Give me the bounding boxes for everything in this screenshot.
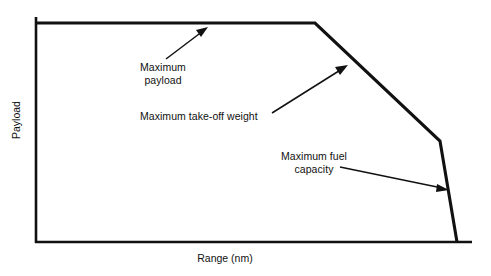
annotation-max-fuel-capacity: Maximum fuel capacity	[262, 150, 366, 175]
chart-canvas	[0, 0, 491, 276]
y-axis-label: Payload	[10, 70, 22, 170]
payload-range-chart: Maximum payload Maximum take-off weight …	[0, 0, 491, 276]
x-axis-label: Range (nm)	[145, 252, 305, 264]
max-payload-leader	[166, 27, 208, 59]
annotation-max-payload: Maximum payload	[113, 61, 213, 86]
annotation-max-takeoff-weight: Maximum take-off weight	[140, 110, 280, 123]
payload-range-envelope	[36, 23, 457, 242]
max-takeoff-weight-leader	[272, 65, 348, 113]
